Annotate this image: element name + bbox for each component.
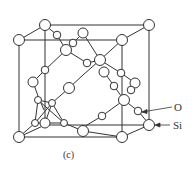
unit-cell-edges	[19, 25, 149, 137]
crystal-structure-diagram	[0, 0, 195, 178]
bonds	[19, 25, 149, 137]
oxygen-label: O	[174, 101, 182, 113]
figure-caption: (c)	[63, 149, 74, 160]
atoms	[14, 20, 155, 143]
silicon-label: Si	[173, 119, 182, 131]
